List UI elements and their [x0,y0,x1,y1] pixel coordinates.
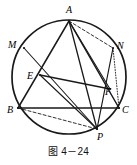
label-A: A [65,4,73,15]
point-A [68,20,70,22]
segment-E-F [40,75,110,89]
label-C: C [122,104,129,115]
figure-page: AMNEFBCP 图 4－24 [0,0,137,165]
label-M: M [7,39,17,50]
point-M [23,47,25,49]
label-E: E [26,70,33,81]
point-E [39,74,41,76]
segment-E-P [40,75,97,129]
label-P: P [96,131,103,142]
point-N [112,47,114,49]
point-B [17,107,19,109]
geometry-figure: AMNEFBCP [0,0,137,143]
label-N: N [116,40,125,51]
segments-group [18,21,119,129]
label-F: F [104,86,112,97]
figure-caption: 图 4－24 [0,143,137,158]
point-P [96,128,98,130]
label-B: B [7,104,13,115]
point-C [118,107,120,109]
